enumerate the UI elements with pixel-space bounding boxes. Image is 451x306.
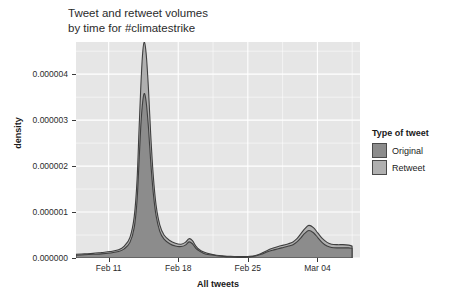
y-tick-label: 0.000001 bbox=[33, 207, 68, 217]
x-tick-mark bbox=[248, 258, 249, 262]
density-area-retweet bbox=[76, 42, 352, 258]
y-axis-title: density bbox=[13, 93, 23, 173]
y-tick-label: 0.000004 bbox=[33, 69, 68, 79]
x-tick-label: Feb 18 bbox=[165, 263, 191, 273]
legend-label: Retweet bbox=[392, 163, 425, 173]
legend: Type of tweet OriginalRetweet bbox=[372, 128, 450, 176]
legend-item[interactable]: Retweet bbox=[372, 159, 450, 176]
y-tick-label: 0.000002 bbox=[33, 161, 68, 171]
chart-root: Tweet and retweet volumes by time for #c… bbox=[0, 0, 451, 306]
legend-swatch-retweet bbox=[372, 160, 387, 175]
x-tick-mark bbox=[109, 258, 110, 262]
y-tick-label: 0.000000 bbox=[33, 253, 68, 263]
x-tick-label: Mar 04 bbox=[304, 263, 330, 273]
density-area-original bbox=[76, 93, 352, 258]
legend-title: Type of tweet bbox=[372, 128, 450, 138]
legend-swatch-original bbox=[372, 143, 387, 158]
y-tick-mark bbox=[72, 258, 76, 259]
x-tick-label: Feb 25 bbox=[235, 263, 261, 273]
y-axis-tick-labels: 0.0000000.0000010.0000020.0000030.000004 bbox=[0, 42, 68, 258]
legend-item[interactable]: Original bbox=[372, 142, 450, 159]
x-axis-tick-labels: Feb 11Feb 18Feb 25Mar 04 bbox=[76, 263, 360, 277]
x-tick-mark bbox=[317, 258, 318, 262]
legend-label: Original bbox=[392, 146, 423, 156]
x-axis-title: All tweets bbox=[76, 279, 360, 289]
y-tick-label: 0.000003 bbox=[33, 115, 68, 125]
legend-items: OriginalRetweet bbox=[372, 142, 450, 176]
plot-panel bbox=[76, 42, 360, 258]
chart-title: Tweet and retweet volumes by time for #c… bbox=[68, 6, 348, 36]
density-areas bbox=[76, 42, 360, 258]
x-tick-label: Feb 11 bbox=[96, 263, 122, 273]
x-tick-mark bbox=[178, 258, 179, 262]
